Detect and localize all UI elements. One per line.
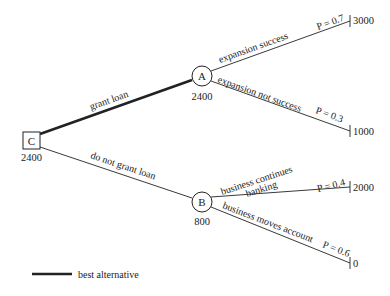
chance-node-b-value: 800 [194, 216, 210, 227]
label-expansion-not-success: expansion not success [216, 74, 303, 114]
chance-node-a-value: 2400 [192, 91, 213, 102]
decision-node-label: C [28, 135, 35, 147]
branch-do-not-grant-loan [40, 147, 192, 198]
probability-business-moves-account: P = 0.6 [321, 239, 351, 259]
chance-node-b-label: B [198, 196, 205, 208]
decision-node-value: 2400 [21, 152, 42, 163]
branch-business-moves-account [211, 207, 350, 263]
legend-label: best alternative [78, 269, 139, 280]
payoff-3000: 3000 [353, 15, 374, 26]
chance-node-a-label: A [198, 70, 206, 82]
branch-grant-loan [40, 80, 192, 134]
probability-business-continues: P = 0.4 [316, 176, 346, 194]
payoff-2000: 2000 [353, 182, 374, 193]
probability-expansion-not-success: P = 0.3 [314, 105, 344, 125]
label-expansion-success: expansion success [217, 30, 290, 65]
payoff-1000: 1000 [353, 126, 374, 137]
probability-expansion-success: P = 0.7 [315, 12, 345, 32]
decision-tree-diagram: C 2400 A 2400 B 800 grant loan do not gr… [0, 0, 390, 296]
payoff-0: 0 [353, 258, 358, 269]
label-business-moves-account: business moves account [221, 200, 315, 245]
branch-expansion-success [211, 21, 350, 71]
label-do-not-grant-loan: do not grant loan [89, 149, 157, 181]
